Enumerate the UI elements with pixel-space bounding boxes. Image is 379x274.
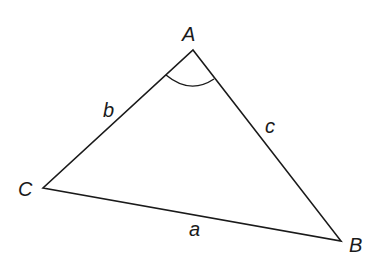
side-label-a: a	[189, 218, 200, 240]
triangle-shape	[43, 50, 341, 241]
vertex-label-a: A	[181, 23, 195, 45]
triangle-diagram: A B C a b c	[0, 0, 379, 274]
angle-a-arc	[166, 75, 214, 86]
vertex-label-c: C	[18, 178, 33, 200]
side-label-c: c	[265, 115, 275, 137]
side-label-b: b	[103, 99, 114, 121]
vertex-label-b: B	[349, 234, 362, 256]
